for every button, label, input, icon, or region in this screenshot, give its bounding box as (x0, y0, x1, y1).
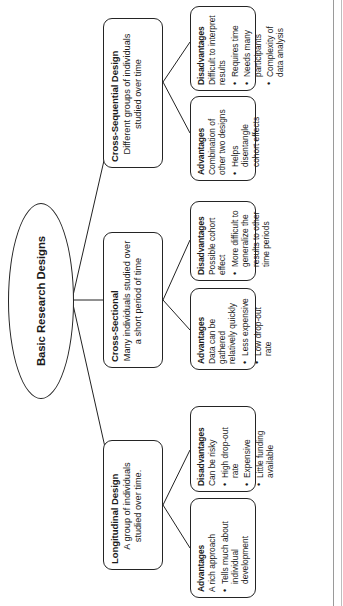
root-node-label: Basic Research Designs (35, 236, 47, 366)
leaf-bullets-longitudinal-disadvantages: High drop-out rate Expensive Little fund… (220, 414, 274, 486)
branch-title-longitudinal: Longitudinal Design (109, 448, 121, 564)
list-item: Less expensive (240, 296, 250, 364)
leaf-node-longitudinal-disadvantages[interactable]: Disadvantages Can be risky High drop-out… (190, 406, 256, 492)
leaf-lead-longitudinal-disadvantages: Can be risky (207, 414, 217, 486)
leaf-lead-longitudinal-advantages: A rich approach (207, 506, 217, 592)
leaf-header-cross-sequential-disadvantages: Disadvantages (196, 14, 206, 85)
leaf-lead-cross-sequential-disadvantages: Difficult to interpret results (207, 14, 227, 85)
link-xs-disadvantages (163, 240, 190, 300)
list-item: Requires time (230, 14, 240, 85)
link-lg-disadvantages (163, 450, 190, 505)
link-lg-advantages (163, 505, 190, 548)
list-item: High drop-out rate (220, 414, 240, 486)
leaf-bullets-longitudinal-advantages: Tells much about individual development (220, 506, 250, 592)
leaf-lead-cross-sectional-disadvantages: Possible cohort effect (207, 209, 227, 275)
leaf-lead-cross-sectional-advantages: Data can be gathered relatively quickly (207, 296, 237, 364)
branch-subtitle-cross-sectional: Many individuals studied over a short pe… (122, 240, 145, 362)
link-cs-advantages (163, 82, 190, 133)
leaf-bullets-cross-sequential-advantages: Helps disentangle cohort effects (230, 104, 260, 175)
list-item: Low drop-out rate (253, 296, 273, 364)
link-xs-advantages (163, 300, 190, 330)
branch-subtitle-longitudinal: A group of individuals studied over time… (122, 448, 145, 564)
link-cs-disadvantages (163, 42, 190, 82)
leaf-node-cross-sequential-advantages[interactable]: Advantages Combination of other two desi… (190, 96, 256, 181)
leaf-node-longitudinal-advantages[interactable]: Advantages A rich approach Tells much ab… (190, 498, 256, 598)
branch-title-cross-sequential: Cross-Sequential Design (109, 26, 121, 162)
leaf-node-cross-sequential-disadvantages[interactable]: Disadvantages Difficult to interpret res… (190, 6, 256, 91)
leaf-bullets-cross-sectional-advantages: Less expensive Low drop-out rate (240, 296, 272, 364)
branch-title-cross-sectional: Cross-Sectional (109, 240, 121, 362)
leaf-header-longitudinal-disadvantages: Disadvantages (196, 414, 206, 486)
branch-node-cross-sequential[interactable]: Cross-Sequential Design Different groups… (103, 18, 163, 168)
branch-subtitle-cross-sequential: Different groups of individuals studied … (122, 26, 145, 162)
list-item: Tells much about individual development (220, 506, 250, 592)
list-item: Complexity of data analysis (265, 14, 285, 85)
leaf-node-cross-sectional-disadvantages[interactable]: Disadvantages Possible cohort effect Mor… (190, 201, 256, 281)
diagram-canvas: Basic Research Designs Cross-Sequential … (0, 0, 343, 606)
leaf-header-cross-sectional-advantages: Advantages (196, 296, 206, 364)
list-item: Needs many participants (242, 14, 262, 85)
leaf-header-longitudinal-advantages: Advantages (196, 506, 206, 592)
leaf-header-cross-sectional-disadvantages: Disadvantages (196, 209, 206, 275)
branch-node-longitudinal[interactable]: Longitudinal Design A group of individua… (103, 440, 163, 570)
list-item: Helps disentangle cohort effects (230, 104, 260, 175)
leaf-bullets-cross-sectional-disadvantages: More difficult to generalize the results… (230, 209, 270, 275)
list-item: More difficult to generalize the results… (230, 209, 270, 275)
list-item: Expensive (242, 414, 252, 486)
root-node-basic-research-designs[interactable]: Basic Research Designs (8, 203, 74, 399)
leaf-lead-cross-sequential-advantages: Combination of other two designs (207, 104, 227, 175)
list-item: Little funding available (255, 414, 275, 486)
leaf-node-cross-sectional-advantages[interactable]: Advantages Data can be gathered relative… (190, 288, 256, 370)
leaf-header-cross-sequential-advantages: Advantages (196, 104, 206, 175)
branch-node-cross-sectional[interactable]: Cross-Sectional Many individuals studied… (103, 232, 163, 368)
leaf-bullets-cross-sequential-disadvantages: Requires time Needs many participants Co… (230, 14, 284, 85)
